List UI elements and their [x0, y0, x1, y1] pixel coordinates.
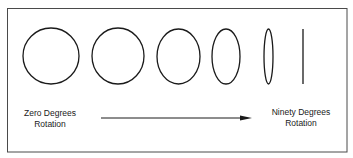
ellipse-near-edge-rotation: [264, 29, 273, 84]
arrowhead-icon: [240, 116, 252, 121]
label-zero-degrees: Zero Degrees Rotation: [14, 108, 86, 130]
rotation-diagram: [0, 0, 353, 158]
label-zero-degrees-line2: Rotation: [14, 119, 86, 130]
ellipse-high-rotation: [212, 29, 240, 84]
ellipse-moderate-rotation: [157, 29, 200, 84]
label-ninety-degrees-line2: Rotation: [262, 118, 340, 129]
circle-zero-rotation: [23, 28, 79, 84]
ellipse-slight-rotation: [92, 28, 144, 84]
label-ninety-degrees-line1: Ninety Degrees: [262, 107, 340, 118]
figure-border: [8, 9, 348, 153]
label-zero-degrees-line1: Zero Degrees: [14, 108, 86, 119]
rotation-arrow: [101, 116, 252, 121]
label-ninety-degrees: Ninety Degrees Rotation: [262, 107, 340, 129]
